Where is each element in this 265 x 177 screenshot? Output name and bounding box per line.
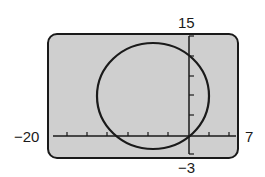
circle-curve (97, 43, 209, 149)
graph-plot (0, 0, 265, 177)
